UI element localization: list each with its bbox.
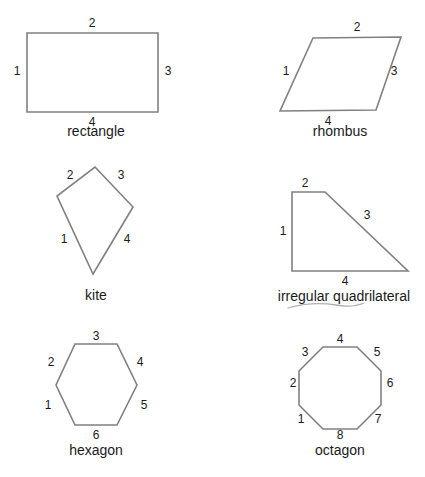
hexagon-outline (56, 344, 137, 425)
rectangle-side-label-3: 3 (165, 65, 172, 77)
hexagon-side-label-6: 6 (93, 429, 100, 441)
irregular-quadrilateral-side-label-2: 2 (302, 177, 309, 189)
polygon-diagram-page: 1 2 3 4 rectangle 1 2 3 4 rhombus 1 2 3 … (0, 0, 425, 477)
octagon-side-label-5: 5 (374, 346, 381, 358)
kite-side-label-3: 3 (118, 169, 125, 181)
hexagon-caption: hexagon (69, 443, 123, 457)
rectangle-caption: rectangle (67, 124, 125, 138)
irregular-quadrilateral-side-label-3: 3 (364, 209, 371, 221)
rhombus-outline (280, 37, 401, 111)
hexagon-side-label-5: 5 (141, 399, 148, 411)
rhombus-side-label-2: 2 (354, 21, 361, 33)
rhombus-side-label-3: 3 (391, 65, 398, 77)
irregular-quadrilateral-outline (292, 192, 408, 271)
octagon-side-label-8: 8 (337, 429, 344, 441)
hexagon-side-label-2: 2 (48, 356, 55, 368)
octagon-side-label-1: 1 (298, 413, 305, 425)
kite-side-label-4: 4 (124, 233, 131, 245)
hexagon-side-label-1: 1 (45, 399, 52, 411)
octagon-side-label-6: 6 (387, 377, 394, 389)
irregular-quadrilateral-caption: irregular quadrilateral (278, 289, 410, 303)
hexagon-side-label-3: 3 (93, 330, 100, 342)
octagon-side-label-7: 7 (375, 413, 382, 425)
octagon-outline (299, 347, 381, 429)
rectangle-side-label-1: 1 (14, 65, 21, 77)
octagon-side-label-2: 2 (290, 377, 297, 389)
rectangle-side-label-2: 2 (89, 17, 96, 29)
rectangle-outline (27, 33, 158, 112)
kite-side-label-1: 1 (61, 233, 68, 245)
octagon-caption: octagon (315, 443, 365, 457)
kite-side-label-2: 2 (67, 169, 74, 181)
kite-outline (57, 167, 133, 274)
irregular-quadrilateral-side-label-4: 4 (342, 275, 349, 287)
octagon-side-label-4: 4 (337, 333, 344, 345)
irregular-quadrilateral-side-label-1: 1 (280, 225, 287, 237)
rhombus-side-label-1: 1 (283, 65, 290, 77)
rhombus-caption: rhombus (313, 124, 367, 138)
hexagon-side-label-4: 4 (137, 356, 144, 368)
kite-caption: kite (85, 288, 107, 302)
octagon-side-label-3: 3 (302, 346, 309, 358)
